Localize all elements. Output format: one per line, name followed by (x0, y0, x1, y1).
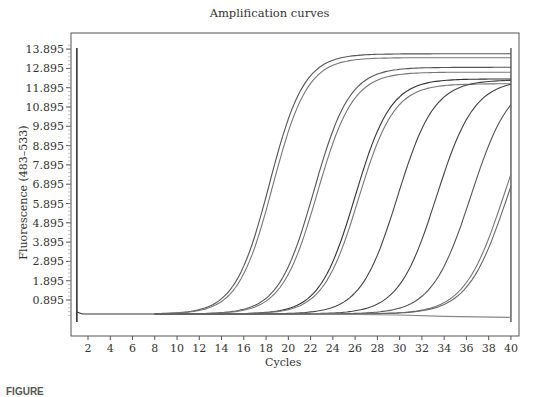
x-tick-label: 24 (326, 342, 340, 355)
plot-frame (71, 33, 519, 336)
y-tick-label: 12.895 (26, 62, 65, 75)
y-tick-label: 11.895 (26, 82, 65, 95)
amplification-curve (155, 84, 511, 314)
y-tick-label: 6.895 (33, 178, 65, 191)
x-axis-label: Cycles (265, 356, 301, 369)
x-tick-label: 18 (259, 342, 273, 355)
amplification-curve (155, 80, 511, 314)
x-tick-label: 10 (170, 342, 184, 355)
x-tick-label: 6 (129, 342, 136, 355)
y-tick-label: 10.895 (26, 101, 65, 114)
amplification-curve (311, 314, 511, 317)
y-tick-label: 13.895 (26, 43, 65, 56)
y-tick-label: 4.895 (33, 217, 65, 230)
baseline (77, 312, 155, 314)
x-tick-label: 34 (437, 342, 451, 355)
amplification-curve (155, 58, 511, 314)
amplification-curve (155, 54, 511, 314)
y-tick-label: 3.895 (33, 236, 65, 249)
y-tick-label: 9.895 (33, 120, 65, 133)
x-tick-label: 12 (192, 342, 206, 355)
y-tick-label: 0.895 (33, 294, 65, 307)
y-tick-label: 5.895 (33, 198, 65, 211)
amplification-curve (155, 67, 511, 314)
y-tick-label: 1.895 (33, 275, 65, 288)
y-axis-label: Fluorescence (483–533) (17, 118, 30, 268)
x-tick-label: 26 (348, 342, 362, 355)
x-tick-label: 22 (304, 342, 318, 355)
y-tick-label: 7.895 (33, 159, 65, 172)
x-tick-label: 38 (482, 342, 496, 355)
amplification-curve (155, 84, 511, 314)
x-tick-label: 4 (107, 342, 114, 355)
x-tick-label: 40 (504, 342, 518, 355)
amplification-curve (155, 174, 511, 314)
x-tick-label: 14 (215, 342, 229, 355)
y-tick-label: 2.895 (33, 255, 65, 268)
amplification-curve (155, 72, 511, 314)
y-tick-label: 8.895 (33, 140, 65, 153)
x-tick-label: 16 (237, 342, 251, 355)
x-tick-label: 20 (281, 342, 295, 355)
amplification-curve (155, 79, 511, 314)
amplification-curve (155, 186, 511, 314)
x-tick-label: 28 (370, 342, 384, 355)
x-tick-label: 8 (151, 342, 158, 355)
figure-caption-partial: FIGURE (6, 386, 44, 397)
amplification-curve (155, 105, 511, 314)
x-tick-label: 2 (85, 342, 92, 355)
x-tick-label: 36 (459, 342, 473, 355)
x-tick-label: 32 (415, 342, 429, 355)
x-tick-label: 30 (393, 342, 407, 355)
